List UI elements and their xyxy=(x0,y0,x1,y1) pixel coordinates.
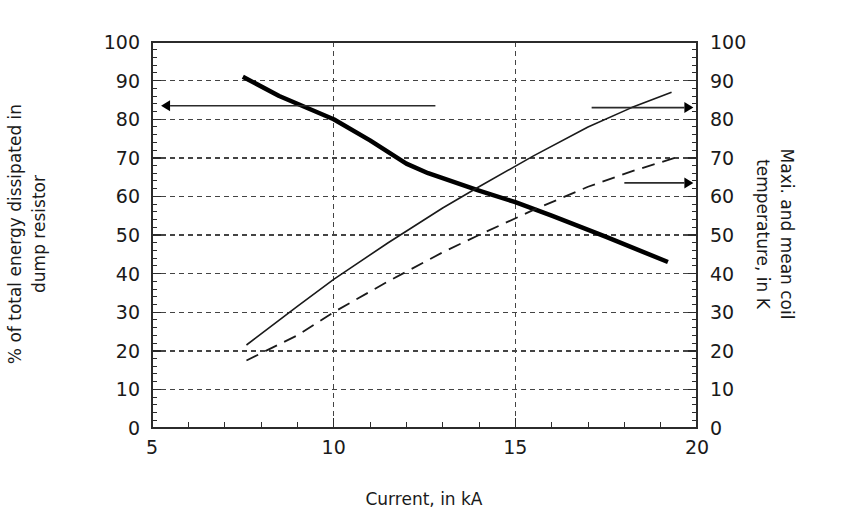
y-tick-label-right: 20 xyxy=(710,340,734,362)
y-tick-label-right: 10 xyxy=(710,378,734,400)
y-tick-label-left: 40 xyxy=(116,263,140,285)
y-axis-right-title-line: temperature, in K xyxy=(751,149,775,320)
x-tick-label: 10 xyxy=(322,436,346,458)
y-tick-label-left: 20 xyxy=(116,340,140,362)
y-tick-label-left: 30 xyxy=(116,301,140,323)
x-tick-label: 5 xyxy=(146,436,158,458)
x-tick-label: 15 xyxy=(503,436,527,458)
y-axis-left-title-line: % of total energy dissipated in xyxy=(3,104,27,364)
x-axis-title: Current, in kA xyxy=(365,489,482,509)
y-tick-label-left: 80 xyxy=(116,108,140,130)
y-tick-label-right: 80 xyxy=(710,108,734,130)
y-axis-right-title-line: Maxi. and mean coil xyxy=(775,149,799,320)
y-tick-label-left: 90 xyxy=(116,70,140,92)
y-tick-label-left: 100 xyxy=(104,31,140,53)
y-axis-right-title: Maxi. and mean coiltemperature, in K xyxy=(751,149,799,320)
y-tick-label-left: 10 xyxy=(116,378,140,400)
y-tick-label-right: 100 xyxy=(710,31,746,53)
y-tick-label-left: 70 xyxy=(116,147,140,169)
y-axis-left-title-line: dump resistor xyxy=(27,104,51,364)
y-tick-label-left: 60 xyxy=(116,185,140,207)
y-tick-label-right: 40 xyxy=(710,263,734,285)
y-tick-label-right: 90 xyxy=(710,70,734,92)
y-tick-label-left: 0 xyxy=(128,417,140,439)
y-tick-label-left: 50 xyxy=(116,224,140,246)
y-tick-label-right: 50 xyxy=(710,224,734,246)
chart-figure: 5101520 0102030405060708090100 010203040… xyxy=(0,0,843,525)
x-tick-label: 20 xyxy=(685,436,709,458)
y-tick-label-right: 0 xyxy=(710,417,722,439)
y-tick-label-right: 30 xyxy=(710,301,734,323)
y-tick-label-right: 60 xyxy=(710,185,734,207)
y-axis-left-title: % of total energy dissipated indump resi… xyxy=(3,104,51,364)
y-tick-label-right: 70 xyxy=(710,147,734,169)
line-chart-svg: 5101520 0102030405060708090100 010203040… xyxy=(0,0,843,525)
